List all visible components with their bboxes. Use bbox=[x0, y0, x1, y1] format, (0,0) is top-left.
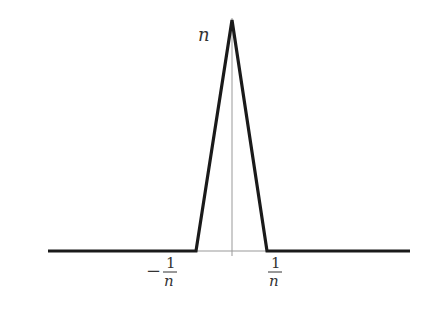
spike-function-diagram: n − 1 n 1 n bbox=[0, 0, 444, 309]
left-tick-denominator: n bbox=[164, 272, 174, 290]
left-tick-sign: − bbox=[146, 260, 161, 281]
right-tick-denominator: n bbox=[269, 272, 279, 290]
spike-curve bbox=[48, 20, 410, 251]
peak-label: n bbox=[198, 24, 210, 45]
left-tick-label: − 1 n bbox=[146, 254, 177, 290]
right-tick-label: 1 n bbox=[268, 254, 282, 290]
left-tick-numerator: 1 bbox=[166, 254, 176, 272]
right-tick-numerator: 1 bbox=[271, 254, 281, 272]
